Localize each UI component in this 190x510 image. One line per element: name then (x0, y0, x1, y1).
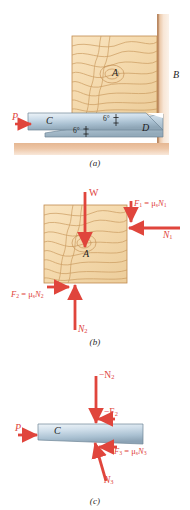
label-force-f2: F2 = μsN2 (11, 290, 44, 300)
label-force-neg-f2: −F2 (104, 408, 118, 418)
panel-a-physical-setup: A B C D P 6° 6° (a) (0, 0, 190, 175)
neg-n2-symbol: −N (99, 370, 111, 380)
f3-equals: = μ (122, 446, 136, 456)
label-wall-b: B (173, 70, 179, 80)
neg-f2-symbol: −F (104, 407, 115, 417)
f1-equals: = μ (142, 198, 156, 208)
angle-label-bottom: 6° (73, 126, 80, 135)
label-force-w: W (89, 188, 98, 198)
label-force-n1: N1 (163, 231, 173, 241)
label-block-a-fbd: A (83, 249, 89, 259)
neg-f2-subscript: 2 (115, 410, 118, 417)
floor (14, 143, 169, 155)
label-force-p-c: P (15, 423, 21, 433)
wedge-friction-figure: A B C D P 6° 6° (a) (0, 0, 190, 510)
f2-n-subscript: 2 (41, 293, 44, 299)
n3-subscript: 3 (110, 478, 113, 485)
panel-a-graphics (0, 0, 190, 175)
panel-c-graphics (0, 350, 190, 510)
f2-equals: = μ (19, 289, 33, 299)
caption-panel-a: (a) (0, 158, 190, 168)
label-force-f1: F1 = μsN1 (134, 199, 167, 209)
f1-n-subscript: 1 (164, 202, 167, 208)
label-force-p-a: P (12, 112, 18, 122)
caption-panel-c: (c) (0, 496, 190, 506)
panel-c-fbd-wedge-c: C P −N2 −F2 N3 F3 = μsN3 (c) (0, 350, 190, 510)
f3-n-subscript: 3 (144, 450, 147, 456)
caption-panel-b: (b) (0, 337, 190, 347)
label-wedge-c-fbd: C (54, 426, 61, 436)
label-force-f3: F3 = μsN3 (114, 447, 147, 457)
panel-b-fbd-block-a: A W F1 = μsN1 N1 F2 = μsN2 N2 (b) (0, 175, 190, 350)
label-force-n2: N2 (78, 325, 88, 335)
neg-n2-subscript: 2 (111, 373, 114, 380)
label-force-neg-n2: −N2 (99, 371, 114, 381)
label-wedge-d: D (142, 123, 149, 133)
label-block-a: A (112, 68, 118, 78)
n1-subscript: 1 (169, 233, 172, 240)
angle-label-top: 6° (103, 114, 110, 123)
label-force-n3: N3 (104, 476, 114, 486)
label-wedge-c: C (46, 116, 53, 126)
n2-subscript: 2 (84, 327, 87, 334)
